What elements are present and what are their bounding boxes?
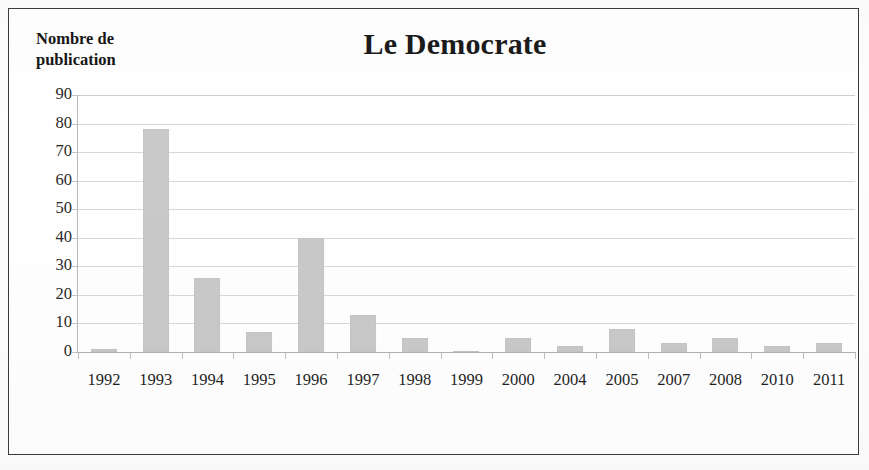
y-tickmark-50 bbox=[72, 209, 77, 210]
y-tickmark-90 bbox=[72, 95, 77, 96]
bar-slot bbox=[544, 95, 596, 352]
y-axis-title-line-2: publication bbox=[36, 49, 166, 70]
x-tickmark-end bbox=[855, 353, 856, 359]
bar-slot bbox=[389, 95, 441, 352]
y-tickmark-20 bbox=[72, 295, 77, 296]
y-tick-label-0: 0 bbox=[28, 343, 72, 360]
bar-slot bbox=[285, 95, 337, 352]
x-tick-label-2008: 2008 bbox=[700, 370, 752, 390]
x-tickmark-1997 bbox=[337, 353, 338, 359]
bar-1995 bbox=[246, 332, 272, 352]
x-tick-label-1994: 1994 bbox=[182, 370, 234, 390]
x-tick-label-1995: 1995 bbox=[233, 370, 285, 390]
y-axis-tick-labels: 9080706050403020100 bbox=[26, 95, 72, 352]
x-tick-label-1998: 1998 bbox=[389, 370, 441, 390]
x-tickmark-1999 bbox=[441, 353, 442, 359]
x-tickmark-1993 bbox=[130, 353, 131, 359]
bar-series bbox=[78, 95, 855, 352]
bar-slot bbox=[648, 95, 700, 352]
bar-2010 bbox=[764, 346, 790, 352]
x-tick-label-1999: 1999 bbox=[441, 370, 493, 390]
x-tickmark-2000 bbox=[492, 353, 493, 359]
bar-2007 bbox=[661, 343, 687, 352]
x-tickmark-2005 bbox=[596, 353, 597, 359]
chart-title: Le Democrate bbox=[290, 27, 620, 61]
y-tick-label-10: 10 bbox=[28, 314, 72, 331]
y-tick-label-20: 20 bbox=[28, 286, 72, 303]
bar-slot bbox=[130, 95, 182, 352]
bar-2004 bbox=[557, 346, 583, 352]
x-tickmark-1996 bbox=[285, 353, 286, 359]
x-tick-label-2005: 2005 bbox=[596, 370, 648, 390]
x-tickmark-2010 bbox=[751, 353, 752, 359]
bar-1994 bbox=[195, 278, 221, 352]
x-tick-label-1992: 1992 bbox=[78, 370, 130, 390]
y-tick-label-80: 80 bbox=[28, 115, 72, 132]
y-tick-label-50: 50 bbox=[28, 200, 72, 217]
x-tick-label-2010: 2010 bbox=[751, 370, 803, 390]
x-tick-label-1993: 1993 bbox=[130, 370, 182, 390]
x-axis-tick-labels: 1992199319941995199619971998199920002004… bbox=[78, 370, 855, 396]
bar-slot bbox=[233, 95, 285, 352]
y-tickmark-30 bbox=[72, 266, 77, 267]
y-tickmark-70 bbox=[72, 152, 77, 153]
x-tickmark-2007 bbox=[648, 353, 649, 359]
bar-slot bbox=[182, 95, 234, 352]
bar-slot bbox=[751, 95, 803, 352]
bar-1993 bbox=[143, 129, 169, 352]
bar-slot bbox=[78, 95, 130, 352]
x-tickmark-1992 bbox=[78, 353, 79, 359]
y-tick-label-60: 60 bbox=[28, 172, 72, 189]
x-tickmark-2004 bbox=[544, 353, 545, 359]
bar-2005 bbox=[609, 329, 635, 352]
bar-slot bbox=[596, 95, 648, 352]
y-tickmark-10 bbox=[72, 323, 77, 324]
y-tick-label-90: 90 bbox=[28, 86, 72, 103]
bar-2011 bbox=[816, 343, 842, 352]
y-tick-label-40: 40 bbox=[28, 229, 72, 246]
x-tickmark-1995 bbox=[233, 353, 234, 359]
bar-1999 bbox=[454, 351, 480, 352]
x-tick-label-2007: 2007 bbox=[648, 370, 700, 390]
x-axis-line bbox=[78, 352, 856, 353]
bar-slot bbox=[803, 95, 855, 352]
bar-2008 bbox=[713, 338, 739, 352]
bar-2000 bbox=[505, 338, 531, 352]
x-tickmark-1994 bbox=[182, 353, 183, 359]
y-tickmark-60 bbox=[72, 181, 77, 182]
x-tick-label-1997: 1997 bbox=[337, 370, 389, 390]
bar-slot bbox=[492, 95, 544, 352]
x-tickmark-2008 bbox=[700, 353, 701, 359]
bar-1997 bbox=[350, 315, 376, 352]
x-tickmark-1998 bbox=[389, 353, 390, 359]
x-tick-label-1996: 1996 bbox=[285, 370, 337, 390]
scanned-page: Le Democrate Nombre de publication 90807… bbox=[0, 0, 869, 470]
y-tickmark-40 bbox=[72, 238, 77, 239]
x-tickmark-2011 bbox=[803, 353, 804, 359]
bar-1996 bbox=[298, 238, 324, 352]
x-tick-label-2000: 2000 bbox=[492, 370, 544, 390]
y-tick-label-30: 30 bbox=[28, 257, 72, 274]
y-tickmark-80 bbox=[72, 124, 77, 125]
bar-slot bbox=[441, 95, 493, 352]
x-tick-label-2011: 2011 bbox=[803, 370, 855, 390]
bar-1998 bbox=[402, 338, 428, 352]
bar-slot bbox=[700, 95, 752, 352]
y-tickmark-0 bbox=[72, 352, 77, 353]
bar-1992 bbox=[91, 349, 117, 352]
x-tick-label-2004: 2004 bbox=[544, 370, 596, 390]
bar-slot bbox=[337, 95, 389, 352]
y-axis-title-line-1: Nombre de bbox=[36, 28, 166, 49]
y-axis-title: Nombre de publication bbox=[36, 28, 166, 70]
y-tick-label-70: 70 bbox=[28, 143, 72, 160]
